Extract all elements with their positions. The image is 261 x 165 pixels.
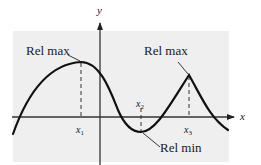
y-axis-label: y <box>96 4 102 16</box>
label-rel-min: Rel min <box>160 140 202 155</box>
label-rel-max-2: Rel max <box>144 43 188 58</box>
label-rel-max-1: Rel max <box>26 43 70 58</box>
extrema-diagram: Rel max Rel min Rel max y x x1 x2 x3 <box>0 0 261 165</box>
x-axis-label: x <box>239 110 245 122</box>
